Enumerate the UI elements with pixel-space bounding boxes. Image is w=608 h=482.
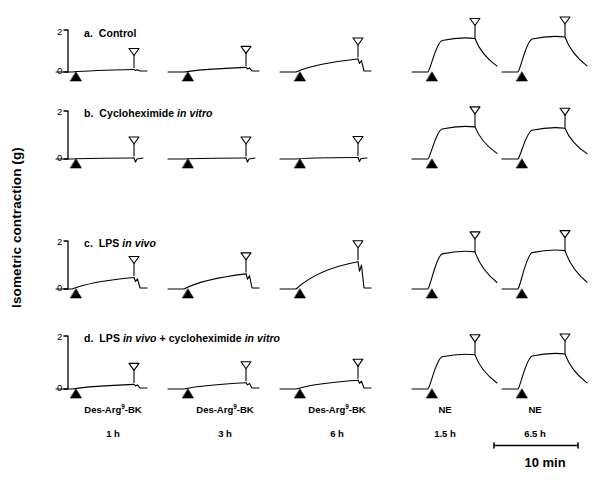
washout-marker-row-3-col-3 bbox=[470, 335, 480, 342]
washout-marker-row-1-col-4 bbox=[560, 108, 570, 115]
agonist-marker-row-0-col-3 bbox=[427, 72, 438, 81]
agonist-marker-row-1-col-4 bbox=[517, 159, 528, 168]
trace-row-2-col-4 bbox=[502, 250, 565, 289]
washout-marker-row-1-col-2 bbox=[353, 137, 363, 144]
trace-row-3-col-2 bbox=[280, 380, 358, 389]
agonist-marker-row-3-col-1 bbox=[183, 389, 194, 398]
trace-washout-tail-row-1-col-0 bbox=[134, 158, 143, 162]
trace-row-2-col-3 bbox=[412, 251, 475, 289]
trace-washout-tail-row-3-col-2 bbox=[358, 380, 371, 388]
trace-washout-tail-row-0-col-1 bbox=[246, 67, 259, 71]
trace-washout-tail-row-2-col-3 bbox=[475, 252, 497, 283]
y-axis-row-3 bbox=[64, 336, 68, 389]
washout-marker-row-2-col-0 bbox=[129, 256, 139, 263]
washout-marker-row-0-col-2 bbox=[353, 38, 363, 45]
trace-row-2-col-2 bbox=[280, 262, 358, 289]
agonist-marker-row-3-col-2 bbox=[295, 389, 306, 398]
washout-marker-row-0-col-3 bbox=[470, 18, 480, 25]
agonist-marker-row-3-col-4 bbox=[517, 389, 528, 398]
trace-row-0-col-1 bbox=[168, 67, 246, 72]
agonist-marker-row-2-col-1 bbox=[183, 289, 194, 298]
washout-marker-row-1-col-1 bbox=[241, 137, 251, 144]
washout-marker-row-0-col-4 bbox=[560, 17, 570, 24]
washout-marker-row-3-col-0 bbox=[129, 363, 139, 370]
agonist-marker-row-1-col-2 bbox=[295, 159, 306, 168]
agonist-marker-row-0-col-4 bbox=[517, 72, 528, 81]
agonist-marker-row-2-col-4 bbox=[517, 289, 528, 298]
trace-washout-tail-row-3-col-0 bbox=[134, 384, 147, 388]
y-axis-row-1 bbox=[64, 111, 68, 159]
washout-marker-row-2-col-2 bbox=[353, 241, 363, 248]
trace-washout-tail-row-2-col-4 bbox=[565, 251, 587, 283]
trace-row-1-col-2 bbox=[280, 158, 358, 159]
trace-washout-tail-row-1-col-3 bbox=[475, 127, 497, 153]
trace-row-0-col-4 bbox=[502, 36, 565, 72]
washout-marker-row-2-col-4 bbox=[560, 231, 570, 238]
trace-washout-tail-row-3-col-3 bbox=[475, 355, 497, 383]
trace-washout-tail-row-2-col-0 bbox=[134, 277, 147, 288]
agonist-marker-row-1-col-3 bbox=[427, 159, 438, 168]
washout-marker-row-1-col-3 bbox=[470, 107, 480, 114]
trace-row-1-col-3 bbox=[412, 126, 475, 159]
washout-marker-row-3-col-4 bbox=[560, 334, 570, 341]
figure-root: Isometric contraction (g) 2 0 2 0 2 0 2 … bbox=[0, 0, 608, 482]
agonist-marker-row-1-col-0 bbox=[71, 159, 82, 168]
agonist-marker-row-0-col-1 bbox=[183, 72, 194, 81]
trace-row-0-col-2 bbox=[280, 59, 358, 72]
washout-marker-row-2-col-3 bbox=[470, 232, 480, 239]
agonist-marker-row-0-col-2 bbox=[295, 72, 306, 81]
washout-marker-row-3-col-1 bbox=[241, 362, 251, 369]
trace-row-1-col-4 bbox=[502, 128, 565, 159]
trace-washout-tail-row-0-col-4 bbox=[565, 37, 587, 66]
trace-washout-tail-row-2-col-2 bbox=[358, 262, 371, 288]
trace-row-3-col-1 bbox=[168, 383, 246, 389]
trace-row-3-col-4 bbox=[502, 353, 565, 389]
washout-marker-row-1-col-0 bbox=[129, 137, 139, 144]
trace-washout-tail-row-1-col-2 bbox=[358, 158, 367, 162]
washout-marker-row-3-col-2 bbox=[353, 359, 363, 366]
scale-bar bbox=[494, 443, 578, 448]
trace-washout-tail-row-1-col-4 bbox=[565, 128, 587, 153]
trace-row-2-col-1 bbox=[168, 274, 246, 289]
y-axis-row-2 bbox=[64, 241, 68, 289]
trace-washout-tail-row-0-col-3 bbox=[475, 38, 497, 66]
trace-washout-tail-row-0-col-0 bbox=[134, 69, 147, 71]
agonist-marker-row-2-col-0 bbox=[71, 289, 82, 298]
agonist-marker-row-3-col-0 bbox=[71, 389, 82, 398]
trace-washout-tail-row-0-col-2 bbox=[358, 59, 371, 71]
washout-marker-row-2-col-1 bbox=[241, 253, 251, 260]
traces-canvas bbox=[0, 0, 608, 482]
washout-marker-row-0-col-1 bbox=[241, 46, 251, 53]
trace-row-0-col-3 bbox=[412, 38, 475, 72]
trace-washout-tail-row-3-col-4 bbox=[565, 354, 587, 383]
trace-row-1-col-1 bbox=[168, 158, 246, 159]
agonist-marker-row-2-col-2 bbox=[295, 289, 306, 298]
agonist-marker-row-0-col-0 bbox=[71, 72, 82, 81]
agonist-marker-row-1-col-1 bbox=[183, 159, 194, 168]
washout-marker-row-0-col-0 bbox=[129, 48, 139, 55]
trace-washout-tail-row-3-col-1 bbox=[246, 383, 259, 388]
trace-washout-tail-row-1-col-1 bbox=[246, 158, 255, 162]
agonist-marker-row-3-col-3 bbox=[427, 389, 438, 398]
trace-washout-tail-row-2-col-1 bbox=[246, 274, 259, 288]
trace-row-3-col-3 bbox=[412, 354, 475, 389]
y-axis-row-0 bbox=[64, 30, 68, 72]
agonist-marker-row-2-col-3 bbox=[427, 289, 438, 298]
